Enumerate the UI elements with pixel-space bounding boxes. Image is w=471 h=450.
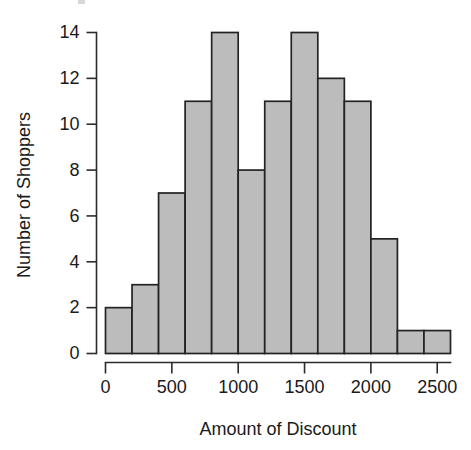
- x-axis-tick-label: 500: [157, 377, 187, 397]
- y-axis-title: Number of Shoppers: [14, 112, 34, 278]
- histogram-figure: 02468101214 05001000150020002500 Amount …: [0, 0, 471, 450]
- y-axis-tick-label: 8: [69, 160, 79, 180]
- y-axis-tick-label: 0: [69, 343, 79, 363]
- y-axis-tick-label: 14: [59, 22, 79, 42]
- x-axis-tick-label: 2500: [417, 377, 457, 397]
- histogram-bar: [397, 331, 424, 354]
- histogram-bar: [318, 78, 345, 353]
- scan-artifact-mark: [78, 0, 85, 4]
- histogram-bar: [159, 193, 186, 354]
- y-axis-tick-label: 12: [59, 68, 79, 88]
- histogram-bar: [291, 33, 318, 354]
- chart-canvas: 02468101214 05001000150020002500 Amount …: [0, 0, 471, 450]
- x-axis-title: Amount of Discount: [199, 419, 356, 439]
- x-axis-tick-label: 0: [100, 377, 110, 397]
- histogram-bar: [185, 101, 212, 353]
- y-axis-tick-label: 4: [69, 252, 79, 272]
- histogram-bar: [344, 101, 371, 353]
- histogram-bar: [106, 308, 133, 354]
- y-axis-tick-label: 10: [59, 114, 79, 134]
- histogram-bar: [238, 170, 265, 353]
- histogram-bar: [424, 331, 451, 354]
- y-axis-tick-label: 2: [69, 297, 79, 317]
- histogram-bar: [212, 33, 239, 354]
- x-axis-tick-label: 1000: [218, 377, 258, 397]
- x-axis-tick-label: 2000: [351, 377, 391, 397]
- histogram-bar: [265, 101, 292, 353]
- histogram-bar: [371, 239, 398, 354]
- x-axis-tick-label: 1500: [285, 377, 325, 397]
- histogram-bar: [132, 285, 159, 354]
- y-axis-tick-label: 6: [69, 206, 79, 226]
